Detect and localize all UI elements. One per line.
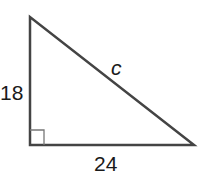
bottom-leg-label: 24 xyxy=(94,153,117,174)
triangle xyxy=(30,17,194,145)
hypotenuse-label: c xyxy=(111,57,122,78)
left-leg-label: 18 xyxy=(0,82,23,103)
right-angle-marker xyxy=(30,130,44,145)
right-triangle-figure xyxy=(0,0,201,177)
